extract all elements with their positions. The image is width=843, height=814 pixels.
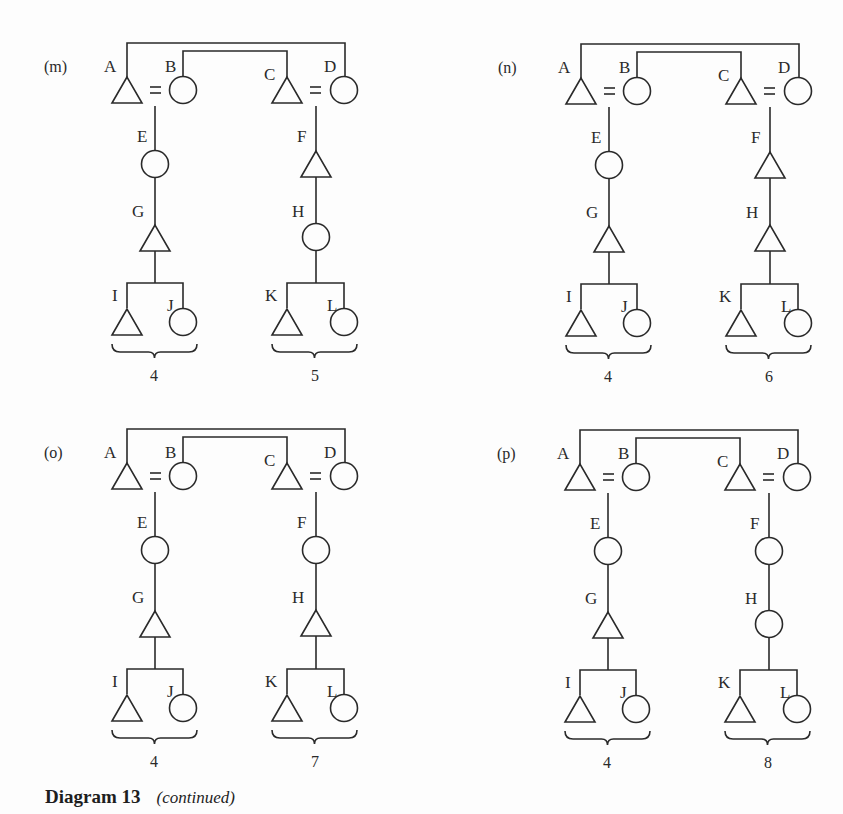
panel-o: (o)ABCDEGIJ4FHKL7 (44, 429, 358, 770)
node-B-female-circle-icon (624, 78, 651, 105)
node-A-male-triangle-icon (112, 463, 142, 489)
label-I: I (566, 287, 572, 306)
node-K-male-triangle-icon (272, 309, 302, 335)
node-I-male-triangle-icon (112, 309, 142, 335)
label-I: I (112, 672, 118, 691)
kinship-diagram-canvas: (m)ABCDEGIJ4FHKL5(n)ABCDEGIJ4FHKL6(o)ABC… (0, 0, 843, 814)
label-B: B (619, 58, 630, 77)
label-C: C (717, 452, 728, 471)
sibling-bracket-left (112, 730, 197, 744)
label-F: F (297, 127, 306, 146)
panel-p: (p)ABCDEGIJ4FHKL8 (497, 430, 811, 771)
sibling-bracket-right (272, 344, 357, 358)
panel-n: (n)ABCDEGIJ4FHKL6 (498, 44, 812, 385)
node-D-female-circle-icon (331, 463, 358, 490)
node-A-male-triangle-icon (566, 78, 596, 104)
node-C-male-triangle-icon (272, 77, 302, 103)
label-A: A (557, 444, 570, 463)
label-E: E (590, 514, 600, 533)
panel-label: (o) (44, 444, 63, 462)
label-C: C (264, 451, 275, 470)
node-D-female-circle-icon (784, 464, 811, 491)
label-G: G (132, 202, 144, 221)
node-B-female-circle-icon (170, 77, 197, 104)
label-J: J (621, 297, 628, 316)
label-J: J (167, 682, 174, 701)
count-left: 4 (150, 367, 158, 384)
label-D: D (778, 58, 790, 77)
label-L: L (327, 296, 337, 315)
node-F-female-circle-icon (756, 538, 783, 565)
node-C-male-triangle-icon (725, 464, 755, 490)
label-B: B (618, 444, 629, 463)
count-right: 8 (764, 754, 772, 771)
sibling-bracket-right (272, 730, 357, 744)
count-left: 4 (604, 368, 612, 385)
sibling-bracket-right (726, 345, 811, 359)
label-K: K (265, 672, 278, 691)
node-G-male-triangle-icon (140, 225, 170, 251)
label-K: K (265, 286, 278, 305)
marriage-equals-sign (310, 87, 321, 93)
sibling-bracket-right (725, 731, 810, 745)
sibling-bracket-left (112, 344, 197, 358)
label-D: D (324, 443, 336, 462)
label-G: G (586, 203, 598, 222)
label-I: I (565, 673, 571, 692)
caption-title: Diagram 13 (45, 786, 141, 807)
panel-m: (m)ABCDEGIJ4FHKL5 (44, 43, 358, 384)
node-D-female-circle-icon (331, 77, 358, 104)
label-B: B (165, 443, 176, 462)
label-C: C (264, 65, 275, 84)
node-D-female-circle-icon (785, 78, 812, 105)
label-J: J (620, 683, 627, 702)
label-A: A (104, 57, 117, 76)
label-D: D (777, 444, 789, 463)
label-H: H (745, 589, 757, 608)
node-E-female-circle-icon (142, 537, 169, 564)
label-E: E (137, 513, 147, 532)
label-E: E (137, 127, 147, 146)
node-C-male-triangle-icon (726, 78, 756, 104)
label-I: I (112, 286, 118, 305)
node-B-female-circle-icon (170, 463, 197, 490)
node-I-male-triangle-icon (565, 696, 595, 722)
node-A-male-triangle-icon (565, 464, 595, 490)
node-K-male-triangle-icon (726, 310, 756, 336)
figure-caption: Diagram 13 (continued) (45, 786, 235, 808)
sibling-bracket-left (566, 345, 651, 359)
node-F-male-triangle-icon (301, 151, 331, 177)
label-F: F (297, 513, 306, 532)
label-H: H (292, 202, 304, 221)
label-J: J (167, 296, 174, 315)
marriage-equals-sign (150, 87, 161, 93)
node-G-male-triangle-icon (594, 226, 624, 252)
label-G: G (132, 588, 144, 607)
node-A-male-triangle-icon (112, 77, 142, 103)
node-E-female-circle-icon (596, 152, 623, 179)
node-K-male-triangle-icon (272, 695, 302, 721)
label-H: H (746, 203, 758, 222)
label-G: G (585, 589, 597, 608)
label-A: A (104, 443, 117, 462)
marriage-equals-sign (603, 474, 614, 480)
node-F-female-circle-icon (303, 537, 330, 564)
node-C-male-triangle-icon (272, 463, 302, 489)
count-right: 7 (311, 753, 319, 770)
marriage-equals-sign (310, 473, 321, 479)
label-H: H (292, 588, 304, 607)
caption-subtitle: (continued) (157, 788, 235, 807)
count-right: 6 (765, 368, 773, 385)
label-D: D (324, 57, 336, 76)
label-L: L (781, 297, 791, 316)
marriage-equals-sign (764, 88, 775, 94)
node-E-female-circle-icon (595, 538, 622, 565)
label-K: K (719, 287, 732, 306)
label-E: E (591, 128, 601, 147)
node-F-male-triangle-icon (755, 152, 785, 178)
node-G-male-triangle-icon (593, 612, 623, 638)
node-H-male-triangle-icon (755, 225, 785, 251)
count-left: 4 (150, 753, 158, 770)
label-K: K (718, 673, 731, 692)
node-H-female-circle-icon (303, 224, 330, 251)
